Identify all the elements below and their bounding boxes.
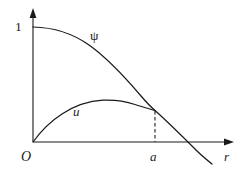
psi-curve-label: ψ	[90, 29, 98, 43]
x-axis-name-label: r	[224, 150, 229, 163]
origin-label: O	[21, 150, 31, 164]
u-curve-label: u	[73, 105, 80, 118]
x-axis-arrow-icon	[224, 139, 234, 146]
psi-curve	[33, 27, 212, 164]
x-axis-tick-label-a: a	[150, 150, 157, 163]
figure-container: 1 O a r ψ u	[0, 0, 244, 174]
y-axis-arrow-icon	[30, 8, 37, 18]
u-curve	[33, 100, 155, 142]
y-axis-tick-label-one: 1	[15, 20, 22, 34]
plot-canvas	[0, 0, 244, 174]
